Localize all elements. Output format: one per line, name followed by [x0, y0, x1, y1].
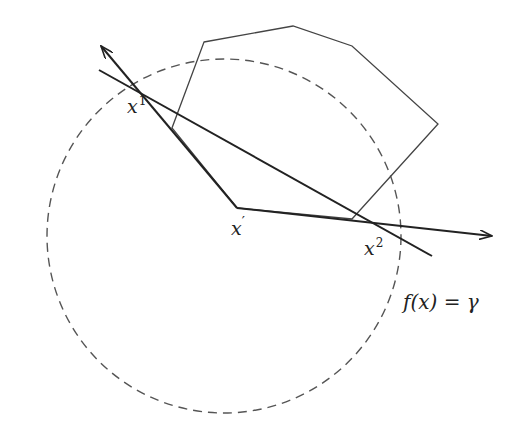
diagram-svg	[0, 0, 520, 431]
level-set-circle	[47, 59, 401, 413]
label-x1: x1	[127, 94, 146, 117]
feasible-polygon	[172, 26, 438, 219]
label-level-set: f(x) = γ	[403, 290, 479, 314]
line-through-x1-x2	[99, 70, 432, 256]
direction-lines	[99, 46, 492, 256]
diagram-canvas: x1 x′ x2 f(x) = γ	[0, 0, 520, 431]
label-x2: x2	[364, 236, 383, 259]
arrow-from-xprime-to-x1	[101, 46, 237, 208]
arrow-from-xprime-to-x2	[237, 208, 492, 236]
label-xprime: x′	[231, 214, 245, 239]
